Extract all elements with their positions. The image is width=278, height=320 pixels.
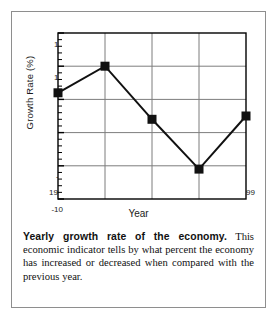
plot-area xyxy=(12,12,265,224)
figure-frame: Growth Rate (%) 15 10 5 0 -5 -10 1995 19… xyxy=(11,11,266,308)
caption-lead-in: Yearly growth rate of the economy. xyxy=(23,231,227,242)
data-point-1995 xyxy=(54,88,63,97)
data-point-1997 xyxy=(148,115,157,124)
growth-rate-line-chart: Growth Rate (%) 15 10 5 0 -5 -10 1995 19… xyxy=(12,12,265,224)
data-point-1999 xyxy=(242,112,251,121)
figure-caption: Yearly growth rate of the economy. This … xyxy=(23,230,254,283)
data-point-1996 xyxy=(101,62,110,71)
data-point-1998 xyxy=(195,165,204,174)
